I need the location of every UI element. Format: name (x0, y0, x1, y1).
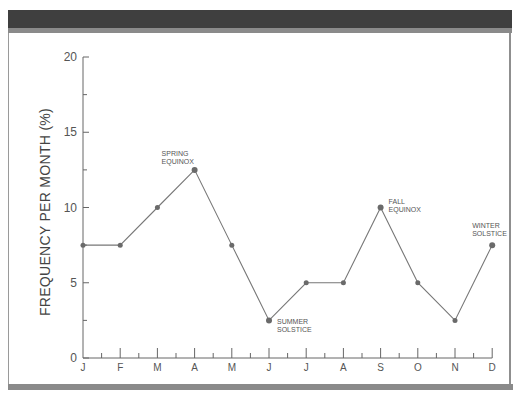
annotation-label: FALLEQUINOX (389, 198, 422, 214)
x-tick-label: D (489, 362, 496, 373)
data-point (229, 243, 234, 248)
data-point (415, 280, 420, 285)
x-tick-label: F (117, 362, 123, 373)
x-tick-label: M (228, 362, 236, 373)
x-tick-label: M (153, 362, 161, 373)
annotation-label: WINTERSOLSTICE (472, 222, 507, 237)
data-point (81, 243, 86, 248)
x-tick-label: N (451, 362, 458, 373)
annotation-label: SUMMERSOLSTICE (277, 318, 312, 333)
x-tick-label: J (267, 362, 272, 373)
data-point (266, 317, 272, 323)
x-tick-label: S (377, 362, 384, 373)
data-point (378, 205, 384, 211)
data-point (341, 280, 346, 285)
annotation-label: SPRINGEQUINOX (162, 150, 195, 166)
series-polyline (83, 170, 492, 321)
data-point (192, 167, 198, 173)
data-point (304, 280, 309, 285)
data-point (453, 318, 458, 323)
x-tick-label: A (340, 362, 347, 373)
line-chart: 05101520JFMAMJJASOND SPRINGEQUINOXSUMMER… (0, 0, 527, 401)
x-tick-label: J (81, 362, 86, 373)
data-point (155, 205, 160, 210)
y-axis-label: FREQUENCY PER MONTH (%) (37, 108, 53, 316)
annotations: SPRINGEQUINOXSUMMERSOLSTICEFALLEQUINOXWI… (162, 150, 508, 334)
x-tick-label: J (304, 362, 309, 373)
y-tick-label: 0 (70, 351, 77, 365)
y-tick-label: 5 (70, 276, 77, 290)
y-tick-label: 15 (64, 125, 78, 139)
series-line (81, 167, 496, 324)
y-tick-label: 10 (64, 201, 78, 215)
data-point (118, 243, 123, 248)
x-tick-label: O (414, 362, 422, 373)
data-point (489, 242, 495, 248)
x-tick-label: A (191, 362, 198, 373)
y-tick-label: 20 (64, 50, 78, 64)
